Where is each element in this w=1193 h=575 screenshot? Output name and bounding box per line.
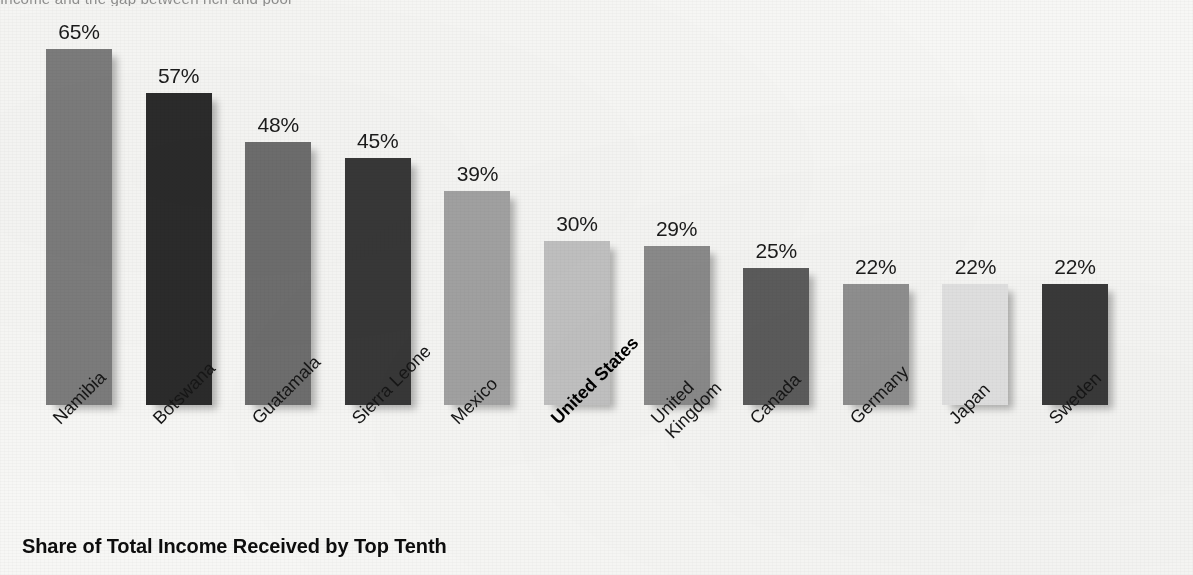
category-axis: NamibiaBotswanaGuatamalaSierra LeoneMexi…	[0, 414, 1193, 524]
bar-rect	[46, 49, 112, 405]
bar-value-label: 22%	[955, 255, 996, 279]
bar-value-label: 25%	[755, 239, 796, 263]
bar-value-label: 39%	[457, 162, 498, 186]
bar-group: 65%	[46, 49, 112, 405]
bar-value-label: 22%	[855, 255, 896, 279]
bar-value-label: 22%	[1054, 255, 1095, 279]
bar-rect	[146, 93, 212, 405]
bar-value-label: 29%	[656, 217, 697, 241]
bar-group: 57%	[146, 93, 212, 405]
bar-value-label: 65%	[58, 20, 99, 44]
bar-chart-figure: Income and the gap between rich and poor…	[0, 0, 1193, 575]
bar-group: 39%	[444, 191, 510, 405]
bar-value-label: 57%	[158, 64, 199, 88]
bar-value-label: 45%	[357, 129, 398, 153]
chart-title: Share of Total Income Received by Top Te…	[22, 535, 447, 558]
bar-rect	[444, 191, 510, 405]
bar-value-label: 48%	[257, 113, 298, 137]
bar-value-label: 30%	[556, 212, 597, 236]
